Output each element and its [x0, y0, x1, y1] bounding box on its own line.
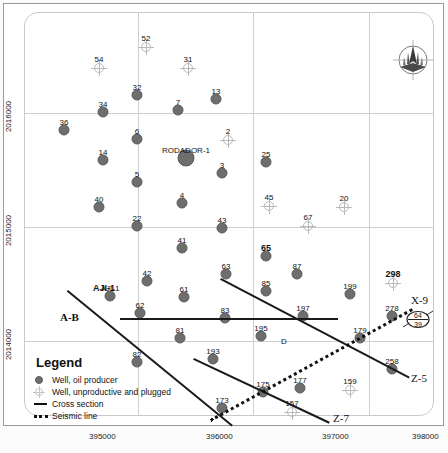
label-a-b: A-B — [60, 311, 79, 323]
legend-label: Seismic line — [52, 411, 97, 421]
well-symbol-icon — [223, 135, 233, 145]
well-unproductive-marker[interactable]: 159 — [345, 385, 355, 395]
well-label: 52 — [142, 35, 151, 43]
well-oil-producer-marker[interactable]: 13 — [211, 94, 222, 105]
well-unproductive-marker[interactable]: 2 — [223, 135, 233, 145]
well-label: 4 — [180, 192, 184, 200]
well-symbol-icon — [303, 221, 313, 231]
well-label: 197 — [296, 305, 309, 313]
well-symbol-icon — [264, 201, 274, 211]
well-oil-producer-marker[interactable]: 41 — [177, 243, 188, 254]
well-label: 45 — [265, 194, 274, 202]
well-unproductive-marker[interactable]: 45 — [264, 201, 274, 211]
cross-section-symbol-icon — [34, 403, 52, 405]
x-axis-tick-label: 396000 — [206, 432, 233, 441]
well-oil-producer-marker[interactable]: 3 — [217, 168, 228, 179]
seismic-line-symbol-icon — [34, 415, 52, 418]
well-oil-producer-marker[interactable]: 62 — [135, 308, 146, 319]
well-oil-producer-marker[interactable]: 5 — [132, 177, 143, 188]
label-d-marker: D — [281, 337, 287, 346]
well-label: 3 — [220, 162, 224, 170]
well-label: 31 — [184, 56, 193, 64]
well-label: 81 — [176, 327, 185, 335]
well-oil-producer-marker[interactable]: 43 — [217, 223, 228, 234]
oval-top-value: 64 — [414, 312, 422, 319]
well-oil-producer-marker[interactable]: 34 — [98, 107, 109, 118]
well-label: 83 — [221, 307, 230, 315]
well-oil-producer-marker[interactable]: 4 — [177, 198, 188, 209]
well-label: 61 — [180, 286, 189, 294]
well-pair-marker-oval: 64 39 — [403, 310, 433, 329]
oval-bottom-value: 39 — [414, 321, 422, 328]
well-label: 40 — [95, 196, 104, 204]
well-unproductive-marker[interactable]: 298 — [388, 278, 398, 288]
well-unproductive-marker[interactable]: 52 — [141, 42, 151, 52]
well-unproductive-marker[interactable]: 157 — [287, 407, 297, 417]
well-label: 42 — [143, 270, 152, 278]
well-label: 34 — [99, 101, 108, 109]
label-z-7: Z-7 — [333, 412, 349, 424]
legend-item-seismic-line: Seismic line — [34, 410, 209, 422]
well-oil-producer-marker[interactable]: 85 — [261, 286, 272, 297]
well-label: 22 — [133, 215, 142, 223]
well-label: 65 — [261, 244, 271, 253]
well-oil-producer-marker[interactable]: 199 — [345, 289, 356, 300]
well-label: 7 — [176, 99, 180, 107]
well-oil-producer-marker[interactable]: 61 — [179, 292, 190, 303]
well-label: 173 — [215, 397, 228, 405]
well-label: 298 — [385, 270, 400, 279]
well-oil-producer-marker[interactable]: RODADOR-1 — [178, 150, 195, 167]
cross-section-line[interactable] — [120, 318, 338, 320]
well-label: 43 — [218, 217, 227, 225]
well-oil-producer-marker[interactable]: 6 — [132, 134, 143, 145]
well-symbol-icon — [94, 63, 104, 73]
well-label: 54 — [95, 56, 104, 64]
well-location-map-page: 3234137366RODADOR-1143255404224341654263… — [0, 0, 448, 453]
well-symbol-icon — [388, 278, 398, 288]
well-label: 41 — [178, 237, 187, 245]
well-unproductive-marker[interactable]: 67 — [303, 221, 313, 231]
well-oil-producer-marker[interactable]: 32 — [132, 90, 143, 101]
well-label: 278 — [385, 305, 398, 313]
well-label: 177 — [293, 377, 306, 385]
well-label: 85 — [262, 280, 271, 288]
well-symbol-icon — [183, 63, 193, 73]
x-axis-tick-label: 397000 — [322, 432, 349, 441]
well-symbol-icon — [287, 407, 297, 417]
well-oil-producer-marker[interactable]: 65 — [261, 251, 272, 262]
well-unproductive-marker[interactable]: 54 — [94, 63, 104, 73]
label-aji-1: AJI-1 — [93, 283, 115, 293]
well-label: 159 — [343, 378, 356, 386]
well-oil-producer-marker[interactable]: 36 — [59, 125, 70, 136]
well-label: 195 — [254, 325, 267, 333]
legend-label: Cross section — [52, 399, 104, 409]
y-axis-tick-label: 2015000 — [4, 207, 13, 255]
well-symbol-icon — [345, 385, 355, 395]
well-oil-producer-marker[interactable]: 193 — [208, 354, 219, 365]
well-unproductive-marker[interactable]: 20 — [339, 202, 349, 212]
well-oil-producer-marker[interactable]: 87 — [292, 269, 303, 280]
legend-label: Well, oil producer — [52, 375, 118, 385]
well-oil-producer-marker[interactable]: 25 — [261, 157, 272, 168]
well-oil-producer-marker[interactable]: 177 — [295, 383, 306, 394]
legend-item-cross-section: Cross section — [34, 398, 209, 410]
legend-title: Legend — [36, 355, 209, 370]
well-oil-producer-marker[interactable]: 42 — [142, 276, 153, 287]
well-oil-producer-marker[interactable]: 81 — [175, 333, 186, 344]
well-oil-producer-symbol-icon — [34, 376, 52, 384]
x-axis-tick-label: 395000 — [89, 432, 116, 441]
legend: Legend Well, oil producer Well, unproduc… — [34, 355, 209, 422]
well-oil-producer-marker[interactable]: 22 — [132, 221, 143, 232]
well-symbol-icon — [141, 42, 151, 52]
well-oil-producer-marker[interactable]: 7 — [173, 105, 184, 116]
y-axis-tick-label: 2016000 — [4, 93, 13, 141]
well-symbol-icon — [339, 202, 349, 212]
well-label: 25 — [262, 151, 271, 159]
well-oil-producer-marker[interactable]: 40 — [94, 202, 105, 213]
well-oil-producer-marker[interactable]: 195 — [256, 331, 267, 342]
well-unproductive-plugged-symbol-icon — [34, 388, 52, 396]
well-label: 199 — [343, 283, 356, 291]
well-oil-producer-marker[interactable]: 14 — [98, 155, 109, 166]
well-unproductive-marker[interactable]: 31 — [183, 63, 193, 73]
well-label: 32 — [133, 84, 142, 92]
